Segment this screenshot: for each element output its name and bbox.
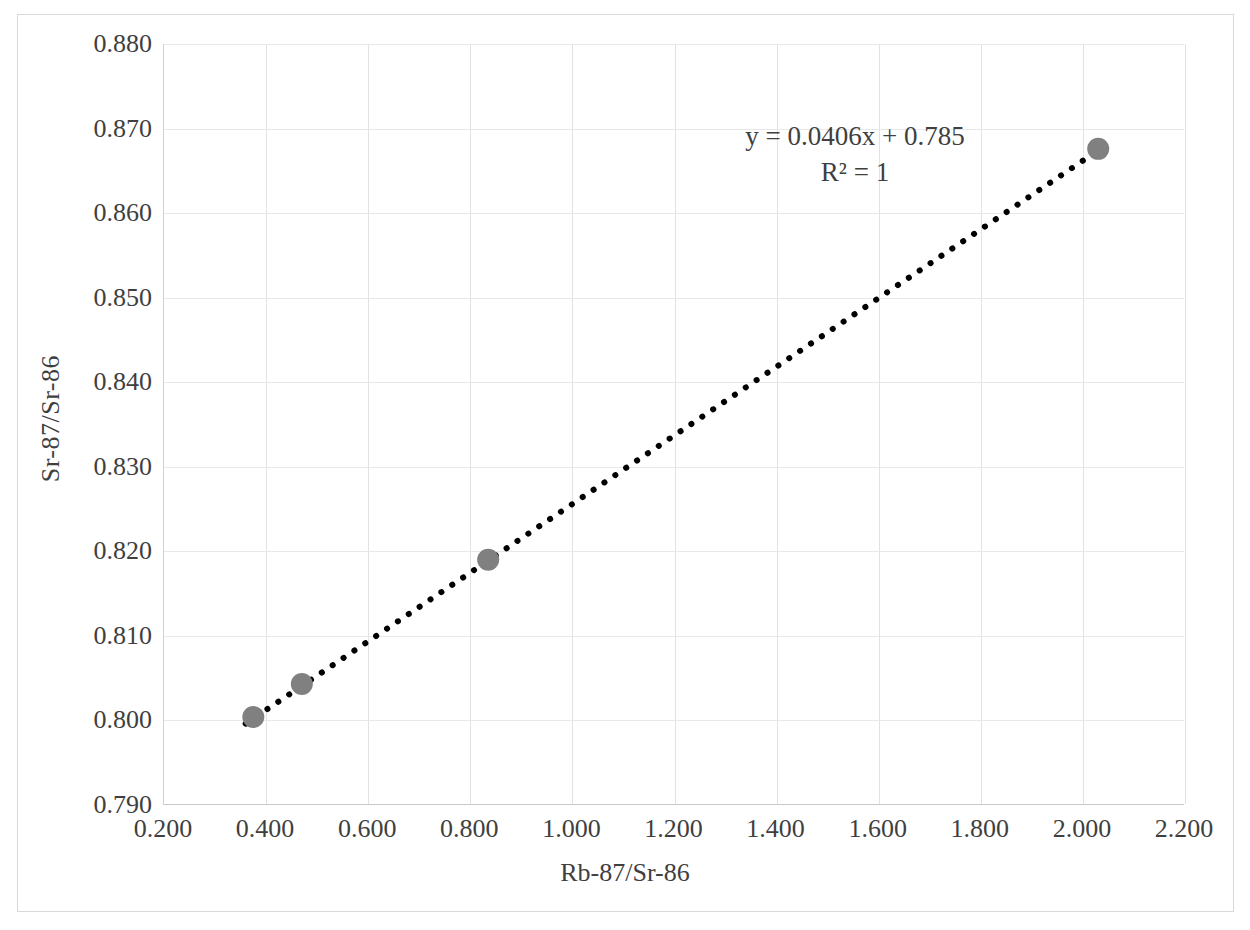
y-axis-tick-label: 0.800: [94, 707, 153, 733]
y-axis-tick-label: 0.880: [94, 31, 153, 57]
data-point-marker: [1087, 138, 1109, 160]
x-axis-tick-label: 0.200: [134, 816, 193, 842]
x-axis-tick-label: 0.800: [440, 816, 499, 842]
series-layer: [164, 44, 1185, 805]
y-axis-tick-label: 0.820: [94, 538, 153, 564]
trendline-path: [246, 149, 1101, 724]
x-axis-tick-label: 1.200: [644, 816, 703, 842]
gridline-vertical: [1185, 44, 1186, 804]
y-axis-tick-label: 0.860: [94, 200, 153, 226]
x-axis-tick-label: 1.800: [951, 816, 1010, 842]
x-axis-tick-label: 2.000: [1053, 816, 1112, 842]
chart-container: 0.7900.8000.8100.8200.8300.8400.8500.860…: [0, 0, 1250, 930]
x-axis-tick-label: 1.400: [746, 816, 805, 842]
trendline-equation-annotation: y = 0.0406x + 0.785 R² = 1: [690, 118, 1020, 191]
x-axis-tick-label: 0.600: [338, 816, 397, 842]
x-axis-tick-label: 1.000: [542, 816, 601, 842]
x-axis-title: Rb-87/Sr-86: [0, 858, 1250, 888]
y-axis-tick-label: 0.830: [94, 454, 153, 480]
y-axis-tick-label: 0.850: [94, 285, 153, 311]
plot-area: [163, 44, 1184, 805]
x-axis-tick-label: 2.200: [1155, 816, 1214, 842]
trendline: [246, 149, 1101, 724]
data-point-marker: [477, 549, 499, 571]
x-axis-tick-labels: 0.2000.4000.6000.8001.0001.2001.4001.600…: [163, 816, 1184, 856]
data-points: [242, 138, 1109, 728]
data-point-marker: [242, 706, 264, 728]
y-axis-tick-label: 0.870: [94, 116, 153, 142]
x-axis-tick-label: 0.400: [236, 816, 295, 842]
x-axis-tick-label: 1.600: [848, 816, 907, 842]
trendline-equation-line: y = 0.0406x + 0.785: [690, 118, 1020, 154]
trendline-rsquared-line: R² = 1: [690, 154, 1020, 190]
y-axis-tick-label: 0.840: [94, 369, 153, 395]
data-point-marker: [291, 673, 313, 695]
y-axis-tick-labels: 0.7900.8000.8100.8200.8300.8400.8500.860…: [0, 44, 152, 805]
y-axis-title: Sr-87/Sr-86: [36, 355, 66, 482]
y-axis-tick-label: 0.810: [94, 623, 153, 649]
